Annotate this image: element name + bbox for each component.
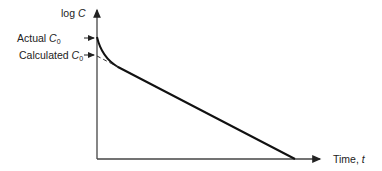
actual-curve [97, 37, 295, 159]
actual-c0-label: Actual C0 [17, 32, 61, 45]
x-axis-label: Time, t [333, 153, 366, 165]
y-axis-label: log C [61, 7, 86, 19]
calculated-c0-label: Calculated C0 [19, 49, 83, 62]
decay-diagram: log C Actual C0 Calculated C0 Time, t [0, 0, 382, 171]
